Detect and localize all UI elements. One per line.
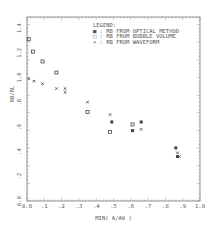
y-tick-label: .6 (16, 124, 22, 131)
waveform-marker (64, 87, 67, 90)
bubble-marker (27, 38, 30, 41)
waveform-marker (86, 101, 89, 104)
x-tick-label: .4 (93, 203, 100, 209)
y-tick-label: 1.0 (16, 73, 22, 83)
x-axis-label: MIN( A/A0 ) (95, 215, 131, 221)
scatter-chart: 0.0.1.2.3.4.5.6.7.8.91.00.0.2.4.6.81.01.… (0, 0, 215, 226)
x-tick-label: .6 (127, 203, 134, 209)
waveform-marker (41, 82, 44, 85)
optical-marker (140, 120, 143, 123)
bubble-marker (55, 71, 58, 74)
optical-marker (131, 129, 134, 132)
waveform-marker (55, 87, 58, 90)
bubble-marker (109, 130, 112, 133)
y-tick-label: .4 (16, 148, 22, 155)
bubble-marker (41, 60, 44, 63)
bubble-marker (86, 111, 89, 114)
x-tick-label: .8 (162, 203, 169, 209)
waveform-marker (27, 77, 30, 80)
x-tick-label: 0.0 (22, 203, 32, 209)
bubble-marker (32, 50, 35, 53)
optical-marker (174, 146, 177, 149)
y-axis-label: RB/RL (9, 85, 15, 102)
waveform-marker (33, 80, 36, 83)
x-tick-label: 1.0 (195, 203, 205, 209)
y-tick-label: 1.4 (16, 22, 22, 33)
y-tick-label: 0.0 (16, 196, 22, 206)
waveform-marker (140, 128, 143, 131)
x-tick-label: .5 (110, 203, 117, 209)
x-tick-label: .2 (58, 203, 65, 209)
legend-item: × : RB FROM WAVEFORM (93, 39, 160, 45)
x-tick-label: .3 (76, 203, 83, 209)
x-tick-label: .1 (41, 203, 48, 209)
optical-marker (110, 120, 113, 123)
y-tick-label: .8 (16, 99, 22, 106)
x-tick-label: .7 (145, 203, 152, 209)
waveform-marker (64, 91, 67, 94)
bubble-marker (131, 123, 134, 126)
x-tick-label: .9 (179, 203, 186, 209)
waveform-marker (176, 152, 179, 155)
waveform-marker (109, 113, 112, 116)
plot-frame (27, 17, 200, 201)
y-tick-label: 1.2 (16, 48, 22, 58)
y-tick-label: .2 (16, 173, 22, 180)
